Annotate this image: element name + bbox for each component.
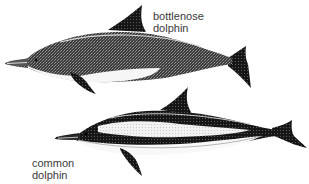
common-label-line1: common: [32, 157, 74, 169]
bottlenose-dolphin: [5, 5, 251, 94]
bottlenose-tail-fluke: [228, 46, 251, 88]
bottlenose-dolphin-label: bottlenose dolphin: [153, 10, 204, 34]
common-dorsal-fin: [160, 87, 192, 114]
bottlenose-label-line1: bottlenose: [153, 10, 204, 22]
dolphin-illustration: bottlenose dolphin common dolphin: [0, 0, 309, 184]
bottlenose-eye: [35, 59, 38, 62]
common-tail-fluke: [272, 120, 307, 148]
common-eye: [85, 133, 87, 135]
bottlenose-dorsal-fin: [108, 5, 146, 32]
common-dolphin-label: common dolphin: [32, 157, 74, 181]
common-label-line2: dolphin: [32, 169, 74, 181]
bottlenose-label-line2: dolphin: [153, 22, 204, 34]
common-dolphin: [55, 87, 307, 176]
